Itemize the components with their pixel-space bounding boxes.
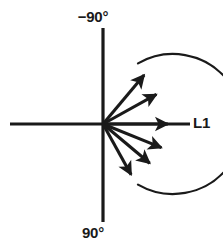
vector-up-shallow — [103, 94, 156, 124]
vector-down-mid — [103, 124, 150, 163]
axis-label-negative-90-degrees: −90° — [0, 8, 186, 25]
vector-diagram-figure: −90° 90° L1 — [0, 0, 223, 250]
diagram-canvas — [0, 0, 223, 250]
direction-vectors-group — [103, 75, 168, 175]
vector-down-shallow — [103, 124, 161, 148]
axis-label-l1: L1 — [193, 114, 210, 131]
vector-down-steep — [103, 124, 131, 175]
vector-up-steep — [103, 75, 144, 124]
axis-label-positive-90-degrees: 90° — [0, 224, 186, 241]
